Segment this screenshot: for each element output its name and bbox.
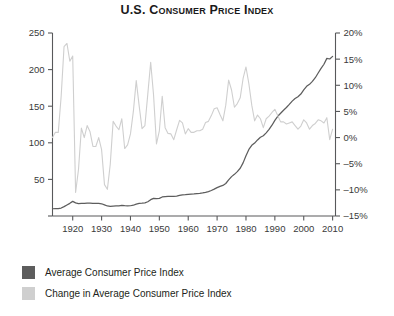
dark-gray-swatch (22, 266, 35, 279)
chart-legend: Average Consumer Price IndexChange in Av… (22, 262, 362, 304)
x-axis-tick-label: 1920 (62, 223, 83, 234)
x-axis-tick-label: 1990 (264, 223, 285, 234)
left-axis: 50100150200250 (29, 27, 53, 216)
chart-plot-area: 50100150200250 –15%–10%–5%0%5%10%15%20% … (0, 0, 394, 260)
x-axis-tick-label: 1950 (149, 223, 170, 234)
x-axis-tick-label: 1930 (91, 223, 112, 234)
left-axis-tick-label: 100 (29, 137, 45, 148)
x-axis: 1920193019401950196019701980199020002010 (53, 216, 344, 234)
legend-item[interactable]: Change in Average Consumer Price Index (22, 283, 362, 304)
right-axis-tick-label: 0% (344, 132, 358, 143)
x-axis-tick-label: 2000 (293, 223, 314, 234)
series-line-cpi-change (53, 43, 333, 192)
right-axis-tick-label: 20% (344, 27, 364, 38)
right-axis-tick-label: 5% (344, 106, 358, 117)
right-axis-tick-label: –10% (344, 184, 369, 195)
x-axis-tick-label: 1940 (120, 223, 141, 234)
right-axis-tick-label: –15% (344, 210, 369, 221)
legend-item-label: Change in Average Consumer Price Index (45, 287, 232, 300)
right-axis-tick-label: –5% (344, 158, 364, 169)
x-axis-tick-label: 1970 (207, 223, 228, 234)
x-axis-tick-label: 2010 (322, 223, 343, 234)
left-axis-tick-label: 200 (29, 64, 45, 75)
data-series-group (53, 43, 333, 208)
x-axis-tick-label: 1960 (178, 223, 199, 234)
right-axis: –15%–10%–5%0%5%10%15%20% (336, 27, 369, 221)
right-axis-tick-label: 10% (344, 80, 364, 91)
light-gray-swatch (22, 287, 35, 300)
right-axis-tick-label: 15% (344, 54, 364, 65)
left-axis-tick-label: 150 (29, 101, 45, 112)
legend-item[interactable]: Average Consumer Price Index (22, 262, 362, 283)
left-axis-tick-label: 250 (29, 27, 45, 38)
left-axis-tick-label: 50 (34, 174, 45, 185)
legend-item-label: Average Consumer Price Index (45, 266, 184, 279)
chart-figure: U.S. Consumer Price Index 50100150200250… (0, 0, 394, 316)
x-axis-tick-label: 1980 (235, 223, 256, 234)
